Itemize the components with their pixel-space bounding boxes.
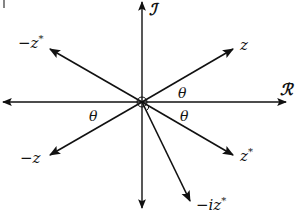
- star-superscript: *: [38, 33, 43, 44]
- theta-label-lower-left: θ: [89, 109, 97, 123]
- label-neg-z-conj-text: −z: [18, 34, 38, 52]
- vector-neg-z-conj: [50, 49, 142, 102]
- right-angle-arc: [146, 106, 149, 111]
- label-neg-i-z-conj: −iz*: [196, 196, 226, 213]
- label-z-conj: z*: [240, 147, 253, 164]
- complex-plane-diagram: [0, 0, 297, 215]
- label-z-conj-text: z: [240, 147, 248, 165]
- label-neg-i-z-conj-text: −iz: [196, 196, 221, 214]
- label-neg-z: −z: [20, 151, 40, 166]
- theta-label-lower-right: θ: [180, 109, 188, 123]
- label-neg-z-text: −z: [20, 149, 40, 167]
- label-neg-z-conj: −z*: [18, 34, 43, 51]
- vector-z: [142, 49, 233, 102]
- real-axis-label: ℛ: [280, 82, 293, 98]
- star-superscript: *: [221, 195, 226, 206]
- theta-label-upper-right: θ: [178, 86, 186, 100]
- label-z-text: z: [240, 36, 248, 54]
- imaginary-axis-label: ℐ: [149, 2, 157, 18]
- star-superscript: *: [248, 146, 253, 157]
- label-z: z: [240, 38, 248, 53]
